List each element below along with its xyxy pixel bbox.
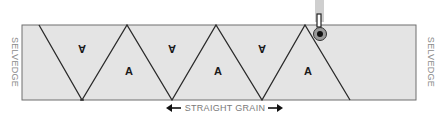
triangle-piece-5: A bbox=[258, 43, 266, 55]
fabric-strip bbox=[22, 25, 416, 100]
arrow-right-icon bbox=[268, 104, 283, 112]
right-selvedge-label: SELVEDGE bbox=[426, 37, 436, 87]
left-selvedge-label: SELVEDGE bbox=[10, 37, 20, 87]
piece-label: A bbox=[304, 65, 312, 77]
triangle-piece-2: A bbox=[125, 65, 133, 77]
triangle-piece-1: A bbox=[78, 43, 86, 55]
triangle-piece-6: A bbox=[304, 65, 312, 77]
piece-label: A bbox=[168, 43, 176, 55]
fabric-diagram: A A A A A A SELVEDGE SELVEDGE STRAIGHT G… bbox=[0, 0, 439, 121]
triangle-piece-3: A bbox=[168, 43, 176, 55]
straight-grain-annotation: STRAIGHT GRAIN bbox=[166, 103, 283, 113]
rotary-cutter-icon bbox=[314, 0, 327, 41]
piece-label: A bbox=[258, 43, 266, 55]
triangle-piece-4: A bbox=[214, 65, 222, 77]
piece-label: A bbox=[214, 65, 222, 77]
straight-grain-label: STRAIGHT GRAIN bbox=[185, 103, 266, 113]
piece-label: A bbox=[125, 65, 133, 77]
piece-label: A bbox=[78, 43, 86, 55]
arrow-left-icon bbox=[166, 104, 181, 112]
